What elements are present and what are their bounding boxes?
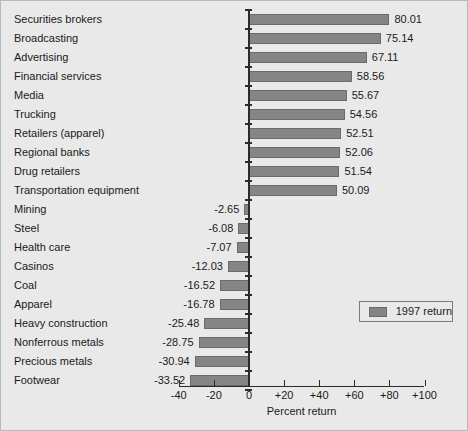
x-tick-label: +100 <box>400 389 450 402</box>
bar-value-label: 58.56 <box>357 70 385 83</box>
zero-line-tick <box>245 294 252 296</box>
bar <box>249 147 340 158</box>
category-label: Heavy construction <box>14 317 108 330</box>
bar-value-label: 80.01 <box>394 13 422 26</box>
x-tick <box>249 380 250 386</box>
bar <box>199 337 249 348</box>
bar-value-label: -2.65 <box>214 203 239 216</box>
category-label: Financial services <box>14 70 101 83</box>
bar-value-label: -25.48 <box>168 317 199 330</box>
plot-area: Securities brokers80.01Broadcasting75.14… <box>1 1 468 431</box>
bar-row: Nonferrous metals-28.75 <box>1 334 468 353</box>
category-label: Retailers (apparel) <box>14 127 104 140</box>
zero-line-tick <box>245 199 252 201</box>
bar-row: Media55.67 <box>1 87 468 106</box>
category-label: Broadcasting <box>14 32 78 45</box>
zero-line-tick <box>245 28 252 30</box>
category-label: Trucking <box>14 108 56 121</box>
bar-row: Broadcasting75.14 <box>1 30 468 49</box>
bar <box>249 166 339 177</box>
zero-line-tick <box>245 161 252 163</box>
bar <box>220 280 249 291</box>
category-label: Advertising <box>14 51 68 64</box>
category-label: Regional banks <box>14 146 90 159</box>
x-tick <box>179 380 180 386</box>
bar <box>249 185 337 196</box>
bar-value-label: 50.09 <box>342 184 370 197</box>
bar-value-label: 52.51 <box>346 127 374 140</box>
bar <box>195 356 249 367</box>
zero-line-tick <box>245 142 252 144</box>
category-label: Health care <box>14 241 70 254</box>
bar <box>228 261 249 272</box>
category-label: Footwear <box>14 374 60 387</box>
bar-row: Retailers (apparel)52.51 <box>1 125 468 144</box>
x-tick <box>354 380 355 386</box>
category-label: Steel <box>14 222 39 235</box>
bar-value-label: 54.56 <box>350 108 378 121</box>
zero-line-tick <box>245 389 252 391</box>
bar-value-label: 51.54 <box>344 165 372 178</box>
zero-line-tick <box>245 180 252 182</box>
bar-value-label: -30.94 <box>159 355 190 368</box>
bar <box>249 33 381 44</box>
bar <box>249 109 345 120</box>
bar-value-label: 52.06 <box>345 146 373 159</box>
category-label: Casinos <box>14 260 54 273</box>
x-axis-line <box>179 386 425 387</box>
category-label: Coal <box>14 279 37 292</box>
bar-row: Steel-6.08 <box>1 220 468 239</box>
zero-line-tick <box>245 351 252 353</box>
zero-line-tick <box>245 9 252 11</box>
bar-row: Precious metals-30.94 <box>1 353 468 372</box>
bar-value-label: -6.08 <box>208 222 233 235</box>
zero-line-tick <box>245 332 252 334</box>
legend-label: 1997 return <box>396 305 452 318</box>
bar <box>249 128 341 139</box>
bar-row: Financial services58.56 <box>1 68 468 87</box>
bar <box>249 71 352 82</box>
bar-row: Transportation equipment50.09 <box>1 182 468 201</box>
x-tick <box>389 380 390 386</box>
zero-line-tick <box>245 370 252 372</box>
bar-row: Regional banks52.06 <box>1 144 468 163</box>
x-tick <box>319 380 320 386</box>
chart-legend: 1997 return <box>359 301 453 322</box>
bar <box>220 299 249 310</box>
x-tick <box>284 380 285 386</box>
bar-row: Drug retailers51.54 <box>1 163 468 182</box>
bar <box>249 90 347 101</box>
bar-value-label: -16.52 <box>184 279 215 292</box>
bar <box>249 52 367 63</box>
bar-value-label: 75.14 <box>386 32 414 45</box>
zero-line-tick <box>245 85 252 87</box>
zero-line-tick <box>245 218 252 220</box>
bar-chart-figure: Securities brokers80.01Broadcasting75.14… <box>0 0 468 431</box>
bar <box>249 14 389 25</box>
zero-line-tick <box>245 104 252 106</box>
category-label: Mining <box>14 203 46 216</box>
zero-line-tick <box>245 275 252 277</box>
bar-value-label: 55.67 <box>352 89 380 102</box>
zero-line-tick <box>245 66 252 68</box>
bar-value-label: 67.11 <box>372 51 399 64</box>
bar-row: Securities brokers80.01 <box>1 11 468 30</box>
bar-row: Trucking54.56 <box>1 106 468 125</box>
zero-line-tick <box>245 237 252 239</box>
bar-value-label: -28.75 <box>162 336 193 349</box>
bar <box>190 375 249 386</box>
bar-value-label: -12.03 <box>192 260 223 273</box>
category-label: Securities brokers <box>14 13 102 26</box>
category-label: Transportation equipment <box>14 184 139 197</box>
zero-line-tick <box>245 313 252 315</box>
zero-line-tick <box>245 123 252 125</box>
x-tick <box>425 380 426 386</box>
bar-row: Mining-2.65 <box>1 201 468 220</box>
category-label: Precious metals <box>14 355 92 368</box>
bar-row: Advertising67.11 <box>1 49 468 68</box>
category-label: Drug retailers <box>14 165 80 178</box>
category-label: Nonferrous metals <box>14 336 104 349</box>
legend-swatch-icon <box>369 307 387 317</box>
bar-row: Casinos-12.03 <box>1 258 468 277</box>
bar <box>204 318 249 329</box>
